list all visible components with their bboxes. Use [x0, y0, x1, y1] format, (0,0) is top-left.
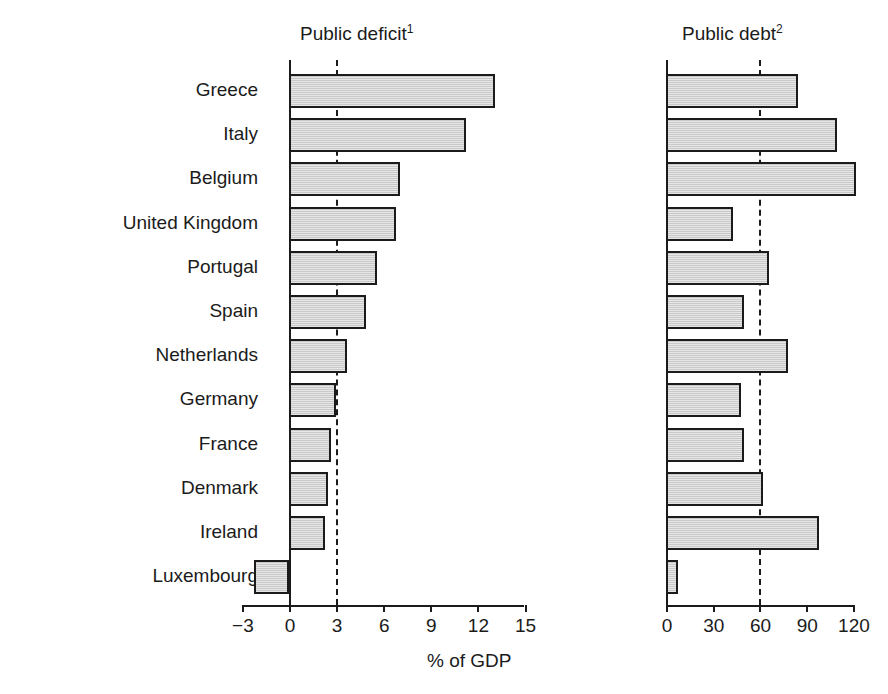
- x-axis-tick: [853, 605, 855, 612]
- x-axis-tick: [713, 605, 715, 612]
- panel-title-deficit: Public deficit1: [300, 22, 413, 45]
- bar: [289, 251, 377, 285]
- x-axis-tick: [289, 605, 291, 612]
- chart-figure: Public deficit1 Public debt2 GreeceItaly…: [0, 0, 888, 694]
- x-axis-tick: [759, 605, 761, 612]
- bar: [666, 162, 856, 196]
- category-label: Netherlands: [156, 344, 258, 366]
- x-axis-tick-label: 6: [379, 615, 390, 637]
- x-axis-tick-label: 9: [426, 615, 437, 637]
- bar: [289, 162, 400, 196]
- bar: [289, 118, 466, 152]
- panel-title-deficit-text: Public deficit: [300, 23, 407, 44]
- category-label: Italy: [223, 123, 258, 145]
- bar: [666, 516, 819, 550]
- x-axis-tick-label: 12: [468, 615, 489, 637]
- category-label: Germany: [180, 388, 258, 410]
- plot-area-debt: [666, 60, 866, 605]
- bar: [254, 560, 289, 594]
- bar: [666, 560, 678, 594]
- bar: [666, 118, 837, 152]
- x-axis-tick-label: 15: [515, 615, 536, 637]
- category-label: Belgium: [189, 167, 258, 189]
- bar: [289, 472, 328, 506]
- x-axis-tick-label: 120: [838, 615, 870, 637]
- x-axis-tick: [383, 605, 385, 612]
- panel-title-debt: Public debt2: [682, 22, 783, 45]
- plot-area-deficit: [289, 60, 539, 605]
- category-label: Luxembourg: [152, 565, 258, 587]
- bar: [666, 339, 788, 373]
- x-axis-tick: [477, 605, 479, 612]
- category-label: France: [199, 433, 258, 455]
- x-axis-caption: % of GDP: [427, 650, 511, 672]
- bar: [289, 383, 336, 417]
- bar: [666, 428, 744, 462]
- bar: [666, 295, 744, 329]
- panel-title-debt-text: Public debt: [682, 23, 776, 44]
- x-axis-tick-label: 30: [703, 615, 724, 637]
- bar: [666, 207, 733, 241]
- category-label: Denmark: [181, 477, 258, 499]
- x-axis-tick: [806, 605, 808, 612]
- bar: [666, 383, 741, 417]
- bar: [289, 339, 347, 373]
- bar: [289, 295, 366, 329]
- bar: [289, 207, 396, 241]
- x-axis-tick-label: −3: [232, 615, 254, 637]
- x-axis-tick-label: 0: [662, 615, 673, 637]
- bar: [666, 74, 798, 108]
- bar: [666, 472, 763, 506]
- x-axis-tick-label: 3: [332, 615, 343, 637]
- category-label: Ireland: [200, 521, 258, 543]
- x-axis-tick-label: 90: [797, 615, 818, 637]
- x-axis-tick: [666, 605, 668, 612]
- panel-title-deficit-superscript: 1: [407, 22, 414, 36]
- bar: [289, 516, 325, 550]
- panel-title-debt-superscript: 2: [776, 22, 783, 36]
- category-label: Greece: [196, 79, 258, 101]
- bar: [289, 74, 495, 108]
- x-axis-tick: [525, 605, 527, 612]
- x-axis-tick-label: 0: [285, 615, 296, 637]
- bar: [666, 251, 769, 285]
- category-axis-labels: GreeceItalyBelgiumUnited KingdomPortugal…: [0, 0, 258, 694]
- x-axis-tick-label: 60: [750, 615, 771, 637]
- bar: [289, 428, 331, 462]
- category-label: Spain: [209, 300, 258, 322]
- category-label: Portugal: [187, 256, 258, 278]
- x-axis-tick: [242, 605, 244, 612]
- x-axis-tick: [430, 605, 432, 612]
- x-axis-tick: [336, 605, 338, 612]
- category-label: United Kingdom: [123, 212, 258, 234]
